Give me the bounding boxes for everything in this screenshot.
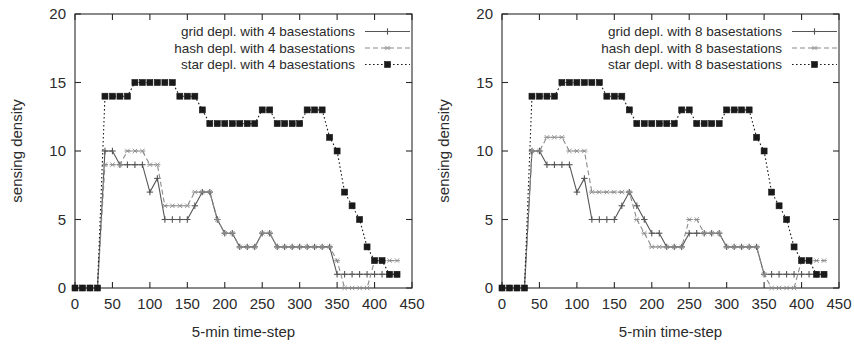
series-marker: [716, 121, 722, 127]
series-marker: [754, 134, 760, 140]
series-marker: [357, 217, 363, 223]
series-marker: [372, 258, 378, 264]
series-marker: [297, 121, 303, 127]
legend-label-2: hash depl. with 4 basestations: [174, 41, 355, 56]
series-marker: [117, 93, 123, 99]
series-marker: [72, 285, 78, 291]
series-marker: [289, 121, 295, 127]
series-marker: [192, 93, 198, 99]
series-marker: [776, 203, 782, 209]
x-tick-label: 0: [498, 295, 506, 312]
series-1: [72, 148, 400, 291]
legend-swatch-marker-3: [385, 62, 391, 68]
series-marker: [536, 93, 542, 99]
figure-two-panel-charts: 050100150200250300350400450051015205-min…: [0, 0, 854, 349]
series-marker: [544, 93, 550, 99]
series-marker: [671, 121, 677, 127]
x-tick-label: 100: [137, 295, 162, 312]
series-line: [502, 137, 824, 288]
series-2: [72, 149, 400, 290]
x-tick-label: 300: [287, 295, 312, 312]
series-marker: [109, 93, 115, 99]
series-marker: [214, 121, 220, 127]
x-tick-label: 200: [212, 295, 237, 312]
series-marker: [184, 93, 190, 99]
legend-label-2: hash depl. with 8 basestations: [601, 41, 782, 56]
series-marker: [394, 271, 400, 277]
x-axis-title: 5-min time-step: [619, 323, 722, 340]
series-marker: [334, 148, 340, 154]
series-marker: [641, 121, 647, 127]
series-marker: [686, 107, 692, 113]
series-marker: [596, 80, 602, 86]
series-3: [72, 80, 400, 292]
series-line: [502, 83, 824, 289]
x-tick-label: 150: [602, 295, 627, 312]
series-1: [499, 148, 827, 291]
series-marker: [177, 93, 183, 99]
x-tick-label: 450: [826, 295, 851, 312]
series-marker: [259, 107, 265, 113]
legend: grid depl. with 4 basestationshash depl.…: [174, 24, 410, 72]
series-marker: [769, 189, 775, 195]
y-tick-label: 0: [485, 279, 493, 296]
legend-label-1: grid depl. with 8 basestations: [608, 24, 782, 39]
series-3: [499, 80, 827, 292]
legend: grid depl. with 8 basestationshash depl.…: [601, 24, 837, 72]
series-marker: [709, 121, 715, 127]
series-marker: [237, 121, 243, 127]
left-chart-root: 050100150200250300350400450051015205-min…: [8, 5, 425, 340]
series-marker: [274, 121, 280, 127]
y-tick-label: 15: [476, 74, 493, 91]
series-marker: [656, 121, 662, 127]
legend-label-3: star depl. with 8 basestations: [608, 57, 782, 72]
series-line: [502, 151, 824, 288]
series-marker: [147, 80, 153, 86]
series-marker: [551, 93, 557, 99]
series-marker: [169, 80, 175, 86]
series-marker: [252, 121, 258, 127]
y-axis-title: sensing density: [8, 99, 25, 203]
series-marker: [506, 285, 512, 291]
x-tick-label: 350: [752, 295, 777, 312]
x-tick-label: 0: [71, 295, 79, 312]
series-line: [75, 83, 397, 289]
series-marker: [514, 285, 520, 291]
x-tick-label: 300: [714, 295, 739, 312]
series-marker: [761, 148, 767, 154]
left-chart-svg: 050100150200250300350400450051015205-min…: [0, 0, 427, 349]
series-marker: [364, 244, 370, 250]
series-marker: [694, 121, 700, 127]
right-chart-root: 050100150200250300350400450051015205-min…: [435, 5, 852, 340]
x-tick-label: 50: [104, 295, 121, 312]
series-marker: [814, 271, 820, 277]
series-marker: [806, 258, 812, 264]
series-marker: [529, 93, 535, 99]
y-tick-label: 0: [58, 279, 66, 296]
series-marker: [139, 80, 145, 86]
series-marker: [604, 93, 610, 99]
series-marker: [379, 258, 385, 264]
series-marker: [199, 107, 205, 113]
x-tick-label: 450: [399, 295, 424, 312]
series-marker: [349, 203, 355, 209]
series-marker: [102, 93, 108, 99]
series-marker: [304, 107, 310, 113]
series-marker: [94, 285, 100, 291]
right-chart-svg: 050100150200250300350400450051015205-min…: [427, 0, 854, 349]
series-marker: [566, 80, 572, 86]
series-marker: [581, 80, 587, 86]
series-marker: [124, 93, 130, 99]
series-2: [499, 135, 827, 290]
series-marker: [559, 80, 565, 86]
series-marker: [634, 121, 640, 127]
series-marker: [679, 107, 685, 113]
x-axis-title: 5-min time-step: [192, 323, 295, 340]
y-tick-label: 20: [49, 5, 66, 22]
series-marker: [619, 93, 625, 99]
series-marker: [87, 285, 93, 291]
series-marker: [342, 189, 348, 195]
series-marker: [229, 121, 235, 127]
legend-swatch-marker-3: [812, 62, 818, 68]
x-tick-label: 50: [531, 295, 548, 312]
